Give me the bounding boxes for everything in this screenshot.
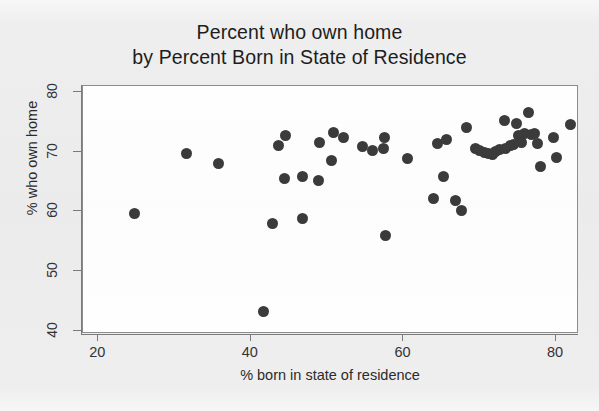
data-point	[313, 175, 324, 186]
data-point	[297, 213, 308, 224]
data-point	[280, 130, 291, 141]
data-point	[565, 119, 576, 130]
y-tick-60	[73, 210, 81, 211]
data-point	[379, 132, 390, 143]
x-tick-label-80: 80	[535, 344, 575, 360]
y-axis-title: % who own home	[24, 83, 40, 233]
data-point	[279, 173, 290, 184]
y-tick-label-70: 70	[45, 139, 59, 163]
x-tick-label-60: 60	[382, 344, 422, 360]
data-point	[213, 158, 224, 169]
x-tick-label-20: 20	[77, 344, 117, 360]
x-tick-20	[97, 334, 98, 341]
y-tick-label-60: 60	[45, 198, 59, 222]
chart-title-line-1: Percent who own home	[0, 20, 599, 45]
x-axis-title: % born in state of residence	[82, 367, 578, 383]
data-point	[326, 155, 337, 166]
data-point	[511, 118, 522, 129]
x-axis-line	[81, 334, 578, 335]
data-point	[456, 205, 467, 216]
data-point	[450, 195, 461, 206]
y-tick-70	[73, 151, 81, 152]
data-point	[548, 132, 559, 143]
data-point	[129, 208, 140, 219]
chart-title-line-2: by Percent Born in State of Residence	[0, 45, 599, 70]
data-point	[535, 161, 546, 172]
chart-title: Percent who own home by Percent Born in …	[0, 20, 599, 70]
y-tick-label-40: 40	[45, 318, 59, 342]
y-tick-80	[73, 91, 81, 92]
data-point	[258, 306, 269, 317]
y-tick-50	[73, 270, 81, 271]
data-point	[428, 193, 439, 204]
data-point	[273, 140, 284, 151]
data-point	[461, 122, 472, 133]
data-point	[523, 107, 534, 118]
data-point	[441, 134, 452, 145]
data-point	[338, 132, 349, 143]
data-point	[267, 218, 278, 229]
data-point	[532, 138, 543, 149]
y-tick-40	[73, 330, 81, 331]
data-point	[551, 152, 562, 163]
data-point-layer	[83, 86, 577, 332]
y-tick-label-80: 80	[45, 79, 59, 103]
data-point	[378, 143, 389, 154]
x-tick-label-40: 40	[230, 344, 270, 360]
plot-area	[82, 85, 578, 333]
scatter-plot-figure: Percent who own home by Percent Born in …	[0, 0, 599, 411]
data-point	[181, 148, 192, 159]
x-tick-80	[555, 334, 556, 341]
data-point	[402, 153, 413, 164]
data-point	[314, 137, 325, 148]
data-point	[438, 171, 449, 182]
x-tick-40	[250, 334, 251, 341]
x-tick-60	[402, 334, 403, 341]
data-point	[499, 115, 510, 126]
y-tick-label-50: 50	[45, 258, 59, 282]
data-point	[367, 145, 378, 156]
data-point	[380, 230, 391, 241]
data-point	[297, 171, 308, 182]
